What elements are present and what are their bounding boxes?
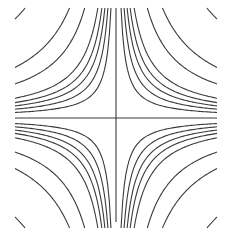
contour-line xyxy=(15,124,111,229)
contour-line xyxy=(15,169,70,228)
saddle-contour-plot xyxy=(0,0,229,237)
contour-line xyxy=(134,8,217,98)
contour-line xyxy=(124,8,217,109)
contour-line xyxy=(134,138,217,228)
contour-line xyxy=(15,217,25,228)
contour-line xyxy=(130,133,217,228)
contour-line xyxy=(15,8,111,113)
contour-line xyxy=(15,8,98,98)
contour-line xyxy=(15,8,70,67)
contour-line xyxy=(15,133,102,228)
contour-line xyxy=(130,8,217,103)
contour-line xyxy=(15,8,108,109)
contour-line xyxy=(162,169,217,228)
contour-line xyxy=(162,8,217,67)
contour-line xyxy=(207,8,217,19)
contour-line xyxy=(124,127,217,228)
contour-line xyxy=(147,152,217,228)
contour-line xyxy=(15,8,85,84)
contour-line xyxy=(147,8,217,84)
contour-line xyxy=(15,152,85,228)
contour-line xyxy=(15,8,102,103)
contour-line xyxy=(15,138,98,228)
contour-line xyxy=(207,217,217,228)
contour-line xyxy=(15,8,25,19)
contour-line xyxy=(121,124,217,229)
contour-line xyxy=(121,8,217,113)
contour-line xyxy=(15,127,108,228)
